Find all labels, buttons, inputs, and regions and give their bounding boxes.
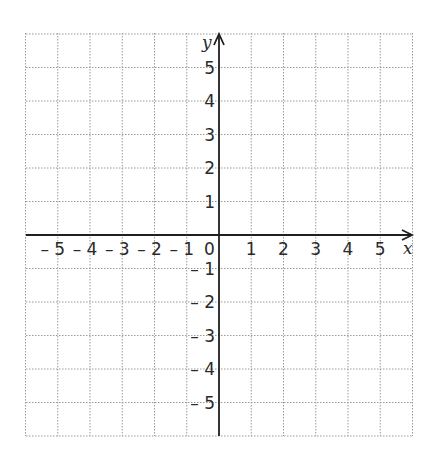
y-tick-label: – 2 [190,292,215,312]
y-tick-label: 2 [204,158,215,178]
y-tick-label: – 5 [190,393,215,413]
x-tick-label: – 5 [40,239,65,259]
x-tick-label: – 1 [169,239,194,259]
x-tick-label: 1 [246,239,257,259]
x-tick-label: 3 [310,239,321,259]
x-tick-label: 4 [343,239,354,259]
y-tick-label: – 3 [190,326,215,346]
y-tick-label: – 4 [190,359,215,379]
x-tick-label: 5 [375,239,386,259]
x-tick-label: 2 [278,239,289,259]
y-tick-label: 1 [204,192,215,212]
y-tick-label: – 1 [190,259,215,279]
x-tick-label: – 3 [105,239,130,259]
x-tick-label: – 4 [73,239,98,259]
axes [26,34,412,436]
origin-label: 0 [204,239,215,259]
y-tick-label: 3 [204,125,215,145]
y-axis-label: y [201,32,212,52]
coordinate-plane: x y 0 – 5– 4– 3– 2– 11234554321– 1– 2– 3… [0,0,435,466]
y-tick-label: 4 [204,91,215,111]
x-tick-label: – 2 [137,239,162,259]
y-tick-label: 5 [204,58,215,78]
x-axis-label: x [403,238,413,258]
tick-labels: x y 0 – 5– 4– 3– 2– 11234554321– 1– 2– 3… [40,32,413,413]
